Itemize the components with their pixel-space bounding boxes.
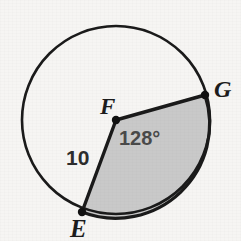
radius-measure-label: 10 <box>66 147 89 168</box>
circle-sector-svg <box>0 0 241 241</box>
central-angle-label: 128° <box>119 128 160 148</box>
vertex-label-e: E <box>70 216 87 241</box>
figure-canvas: F G E 128° 10 <box>0 0 241 241</box>
vertex-label-f: F <box>100 95 115 118</box>
vertex-label-g: G <box>214 77 231 101</box>
vertex-dot-g <box>201 91 209 99</box>
